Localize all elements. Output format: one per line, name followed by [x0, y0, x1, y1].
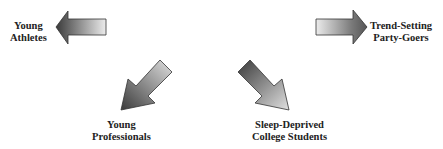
arrow-right-icon: [316, 10, 367, 44]
arrow-down-left-icon: [121, 60, 172, 110]
label-line: Party-Goers: [370, 32, 432, 44]
label-line: Young: [10, 20, 47, 32]
label-line: Sleep-Deprived: [252, 119, 327, 131]
label-young-athletes: Young Athletes: [10, 20, 47, 44]
label-line: Trend-Setting: [370, 20, 432, 32]
label-line: College Students: [252, 131, 327, 143]
label-trend-setting-party-goers: Trend-Setting Party-Goers: [370, 20, 432, 44]
label-sleep-deprived-college-students: Sleep-Deprived College Students: [252, 119, 327, 143]
arrow-left-icon: [56, 11, 106, 44]
arrow-down-right-icon: [238, 60, 289, 110]
label-line: Professionals: [92, 131, 151, 143]
label-line: Young: [92, 119, 151, 131]
label-line: Athletes: [10, 32, 47, 44]
label-young-professionals: Young Professionals: [92, 119, 151, 143]
